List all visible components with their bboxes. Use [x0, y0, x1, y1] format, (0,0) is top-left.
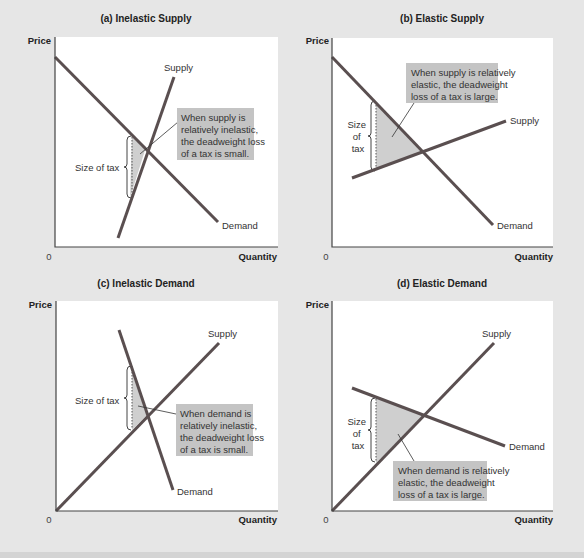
panel-b-demand-label: Demand [497, 220, 533, 231]
panel-b-title: (b) Elastic Supply [400, 13, 484, 24]
panel-a-supply-label: Supply [164, 62, 193, 73]
panel-c: (c) Inelastic Demand Price 0 Quantity Su… [29, 278, 278, 525]
tax-incidence-figure: (a) Inelastic Supply Price 0 Quantity Su… [0, 0, 584, 558]
panel-d-price-label: Price [306, 299, 329, 310]
panel-a-quantity-label: Quantity [238, 251, 277, 262]
panel-c-price-label: Price [29, 299, 52, 310]
panel-d-supply-label: Supply [482, 328, 511, 339]
panel-a-tax-label: Size of tax [75, 162, 120, 173]
panel-a-demand-label: Demand [222, 220, 258, 231]
panel-c-title: (c) Inelastic Demand [97, 278, 194, 289]
panel-d-title: (d) Elastic Demand [397, 278, 487, 289]
panel-d-origin: 0 [323, 514, 328, 525]
panel-b-supply-label: Supply [510, 115, 539, 126]
panel-b: (b) Elastic Supply Price 0 Quantity Supp… [306, 13, 554, 262]
panel-c-demand-label: Demand [177, 486, 213, 497]
panel-b-price-label: Price [306, 35, 329, 46]
panel-b-origin: 0 [323, 251, 328, 262]
panel-c-supply-label: Supply [208, 328, 237, 339]
panel-c-tax-label: Size of tax [75, 395, 120, 406]
panel-a-price-label: Price [28, 35, 51, 46]
panel-c-quantity-label: Quantity [238, 514, 277, 525]
panel-b-quantity-label: Quantity [514, 251, 553, 262]
panel-c-origin: 0 [46, 514, 51, 525]
panel-a-title: (a) Inelastic Supply [100, 13, 192, 24]
panel-a: (a) Inelastic Supply Price 0 Quantity Su… [28, 13, 278, 262]
panel-d-demand-label: Demand [509, 441, 545, 452]
panel-a-origin: 0 [46, 251, 51, 262]
panel-d-quantity-label: Quantity [514, 514, 553, 525]
panel-d: (d) Elastic Demand Price 0 Quantity Supp… [306, 278, 554, 525]
